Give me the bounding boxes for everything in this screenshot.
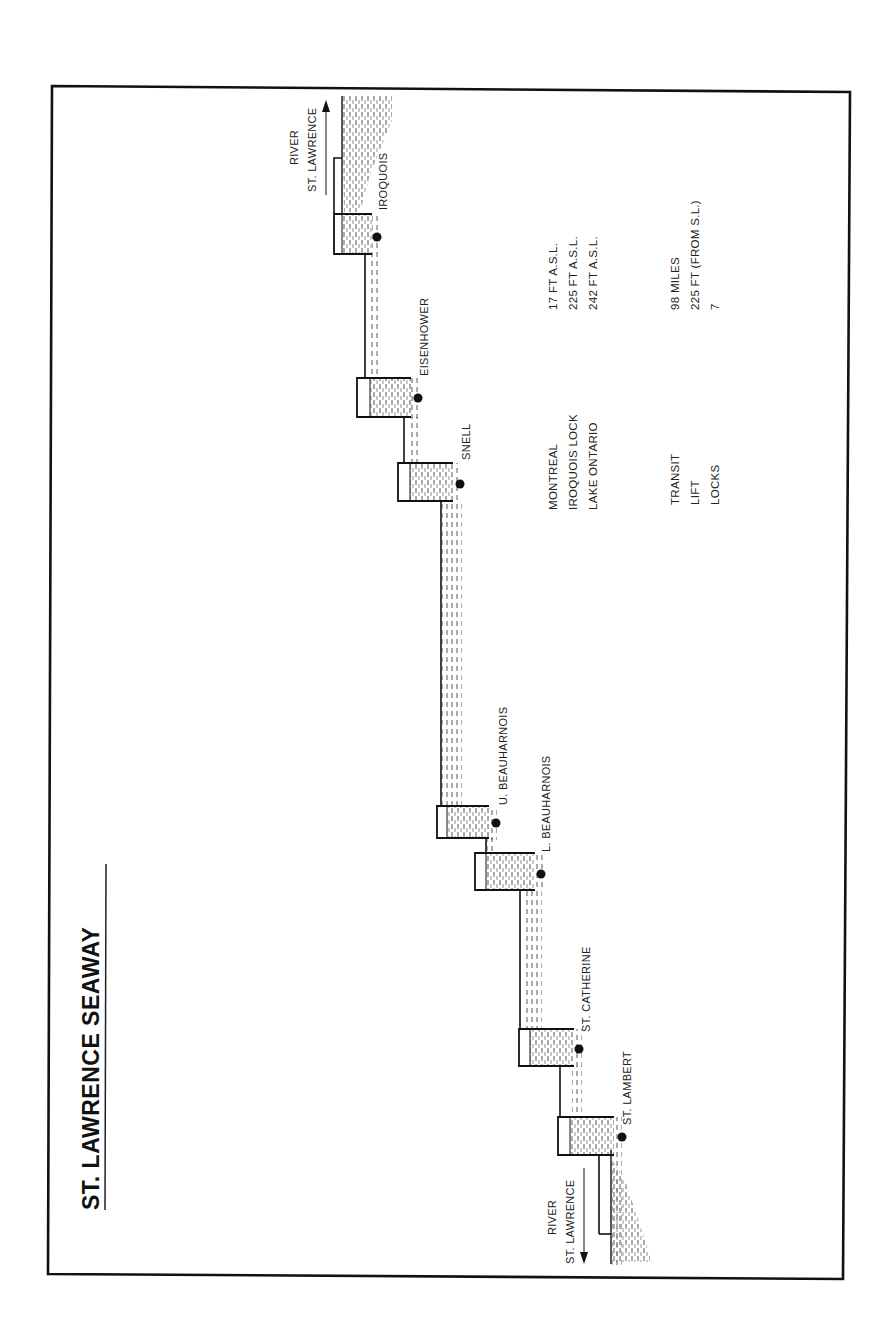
lock-st-catherine [519, 1029, 574, 1117]
elevation-place-iroquois-lock: IROQUOIS LOCK [563, 414, 583, 510]
stat-label-transit: TRANSIT [665, 454, 685, 505]
lock-dot-icon [414, 394, 423, 403]
river-label-bottom-line1: RIVER [546, 1200, 558, 1235]
lock-eisenhower [357, 378, 411, 463]
lock-dot-icon [492, 819, 501, 828]
seaway-profile-diagram [0, 0, 889, 1336]
lock-iroquois [334, 214, 372, 378]
lock-label-eisenhower: EISENHOWER [418, 298, 430, 376]
river-label-top-line1: RIVER [288, 130, 300, 165]
stat-label-lift: LIFT [685, 480, 705, 505]
lock-dot-icon [537, 870, 546, 879]
river-label-bottom-line2: ST. LAWRENCE [564, 1180, 576, 1264]
downstream-river [580, 1150, 650, 1264]
elevation-value-montreal: 17 FT A.S.L. [543, 243, 563, 310]
elevation-value-lake-ontario: 242 FT A.S.L. [583, 236, 603, 310]
lock-dot-icon [373, 233, 382, 242]
river-label-top-line2: ST. LAWRENCE [306, 108, 318, 192]
page-title: ST. LAWRENCE SEAWAY [78, 927, 105, 1210]
lock-dot-icon [618, 1133, 627, 1142]
stat-value-locks: 7 [705, 303, 725, 310]
lock-label-iroquois: IROQUOIS [377, 153, 389, 210]
title-underline [105, 864, 106, 1210]
lock-label-lower-beauharnois: L. BEAUHARNOIS [540, 755, 552, 852]
stat-label-locks: LOCKS [705, 465, 725, 506]
lock-label-snell: SNELL [460, 424, 472, 460]
stat-value-transit: 98 MILES [665, 257, 685, 310]
lock-label-st-lambert: ST. LAMBERT [621, 1051, 633, 1125]
stat-value-lift: 225 FT (FROM S.L.) [685, 200, 705, 310]
lock-label-upper-beauharnois: U. BEAUHARNOIS [497, 707, 509, 805]
lock-upper-beauharnois [437, 806, 489, 853]
elevation-place-lake-ontario: LAKE ONTARIO [583, 422, 603, 510]
elevation-value-iroquois-lock: 225 FT A.S.L. [563, 236, 583, 310]
lock-label-st-catherine: ST. CATHERINE [580, 946, 592, 1032]
elevation-place-montreal: MONTREAL [543, 444, 563, 510]
lock-dot-icon [575, 1045, 584, 1054]
lock-dot-icon [456, 480, 465, 489]
